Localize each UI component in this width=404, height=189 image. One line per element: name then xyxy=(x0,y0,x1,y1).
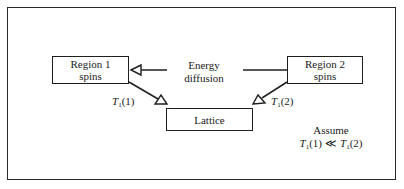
region2-title: Region 2 xyxy=(305,58,345,70)
assumption-inequality: T1(1)≪T1(2) xyxy=(290,137,372,154)
lattice-box: Lattice xyxy=(166,108,253,131)
assumption-title: Assume xyxy=(290,124,372,137)
region1-title: Region 1 xyxy=(70,58,110,70)
rhs-arg: (2) xyxy=(350,137,363,149)
much-less-than-operator: ≪ xyxy=(322,137,340,149)
region2-subtitle: spins xyxy=(314,70,337,82)
region1-subtitle: spins xyxy=(79,70,102,82)
region2-spins-box: Region 2 spins xyxy=(287,56,363,84)
energy-label-line2: diffusion xyxy=(173,72,235,85)
energy-label-line1: Energy xyxy=(173,59,235,72)
lhs-arg: (1) xyxy=(309,137,322,149)
assumption-note: Assume T1(1)≪T1(2) xyxy=(290,124,372,154)
diagram-frame xyxy=(7,7,396,180)
t1-arg: (1) xyxy=(122,95,135,107)
relaxation-time-region1-label: T1(1) xyxy=(112,95,134,112)
relaxation-time-region2-label: T1(2) xyxy=(271,95,293,112)
energy-diffusion-label: Energy diffusion xyxy=(173,59,235,85)
t2-arg: (2) xyxy=(281,95,294,107)
lattice-label: Lattice xyxy=(194,114,225,126)
region1-spins-box: Region 1 spins xyxy=(52,56,129,84)
